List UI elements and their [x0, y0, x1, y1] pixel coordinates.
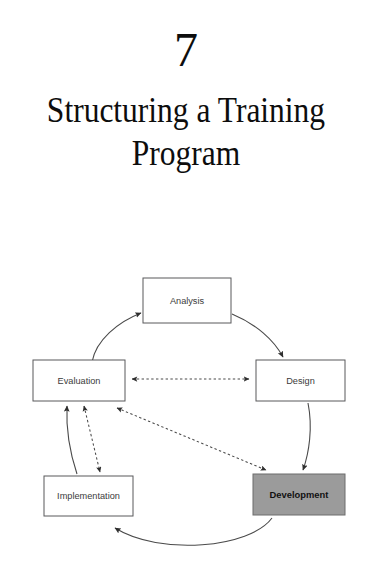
arrow-evaluation-development-dashed: [117, 408, 266, 470]
node-analysis-label: Analysis: [170, 296, 205, 306]
node-design[interactable]: Design: [256, 360, 345, 401]
arrow-development-to-implementation: [115, 518, 272, 545]
node-evaluation[interactable]: Evaluation: [33, 360, 125, 401]
arrow-analysis-to-design: [232, 314, 283, 357]
chapter-header: 7 Structuring a Training Program: [0, 0, 372, 175]
node-design-label: Design: [286, 376, 315, 386]
diagram-canvas: Analysis Design Development Implementati…: [0, 248, 372, 566]
node-evaluation-label: Evaluation: [58, 376, 101, 386]
node-implementation-label: Implementation: [57, 491, 120, 501]
chapter-opening-page: 7 Structuring a Training Program: [0, 0, 372, 566]
addie-cycle-diagram: Analysis Design Development Implementati…: [0, 248, 372, 566]
arrow-design-to-development: [303, 403, 310, 470]
node-analysis[interactable]: Analysis: [143, 278, 231, 323]
arrow-evaluation-implementation-dashed: [84, 406, 100, 472]
node-implementation[interactable]: Implementation: [44, 476, 133, 516]
arrow-implementation-to-evaluation: [67, 406, 77, 474]
node-development-label: Development: [270, 489, 329, 500]
node-development[interactable]: Development: [253, 474, 345, 515]
chapter-title: Structuring a Training Program: [19, 90, 354, 175]
chapter-number: 7: [0, 26, 372, 74]
arrow-evaluation-to-analysis: [92, 313, 141, 362]
